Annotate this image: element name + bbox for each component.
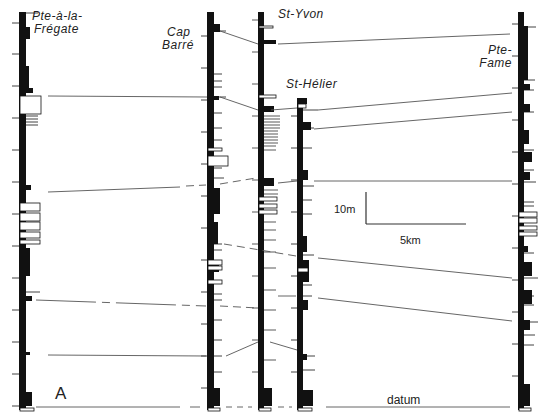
label-line: Fame <box>470 57 512 70</box>
correlation-lines <box>36 31 512 407</box>
label-line: Barré <box>162 39 194 52</box>
scale-bar <box>366 192 466 224</box>
section-cap-barre <box>207 12 220 410</box>
stratigraphic-correlation-diagram <box>0 0 548 416</box>
section-label-pte-a-la-fregate: Pte-à-la- Frégate <box>32 10 83 36</box>
section-label-st-yvon: St-Yvon <box>278 8 324 21</box>
panel-label: A <box>55 384 66 404</box>
section-label-st-helier: St-Hélier <box>286 78 337 91</box>
datum-label: datum <box>387 393 420 407</box>
section-st-helier <box>297 98 313 410</box>
scale-vertical-label: 10m <box>334 203 355 215</box>
section-label-pte-fame: Pte- Fame <box>470 44 512 70</box>
section-label-cap-barre: Cap Barré <box>162 26 194 52</box>
scale-horizontal-label: 5km <box>400 234 421 246</box>
label-line: Frégate <box>34 23 83 36</box>
section-pte-fame <box>518 12 532 410</box>
